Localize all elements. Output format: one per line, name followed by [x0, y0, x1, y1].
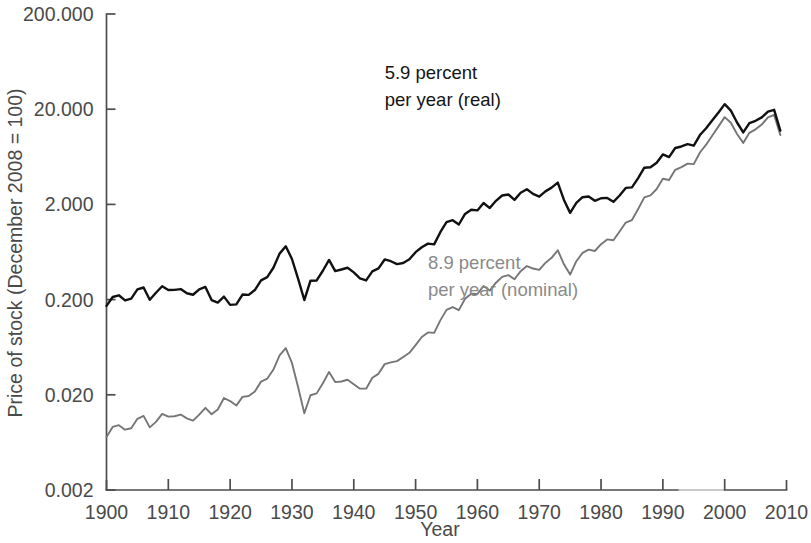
x-tick-label: 1990: [641, 501, 685, 523]
y-tick-label: 0.020: [45, 384, 94, 406]
y-axis-title: Price of stock (December 2008 = 100): [4, 89, 26, 418]
y-tick-label: 0.200: [45, 289, 94, 311]
real-annotation-line2: per year (real): [385, 89, 501, 110]
x-tick-label: 2010: [765, 501, 809, 523]
y-tick-label: 200.000: [23, 3, 94, 25]
x-tick-label: 1960: [456, 501, 500, 523]
x-tick-label: 1970: [518, 501, 562, 523]
y-tick-label: 2.000: [45, 193, 94, 215]
x-axis-group: 1900191019201930194019501960197019801990…: [85, 479, 809, 523]
real-annotation-line1: 5.9 percent: [385, 62, 478, 83]
x-axis-title: Year: [420, 518, 460, 540]
annotations-group: 5.9 percent per year (real) 8.9 percent …: [385, 62, 578, 300]
x-tick-label: 1930: [270, 501, 314, 523]
x-tick-label: 1920: [208, 501, 252, 523]
stock-price-log-chart: 0.0020.0200.2002.00020.000200.000 190019…: [0, 0, 811, 543]
y-tick-label: 0.002: [45, 479, 94, 501]
x-tick-label: 1900: [85, 501, 129, 523]
y-tick-label: 20.000: [34, 98, 94, 120]
real-price-line: [107, 104, 781, 306]
y-axis-tick-labels: 0.0020.0200.2002.00020.000200.000: [23, 3, 94, 501]
y-axis-tick-marks: [107, 14, 116, 490]
chart-figure: 0.0020.0200.2002.00020.000200.000 190019…: [0, 0, 811, 543]
x-tick-label: 2000: [703, 501, 747, 523]
x-tick-label: 1940: [332, 501, 376, 523]
x-tick-label: 1980: [579, 501, 623, 523]
x-axis-tick-marks: [107, 479, 787, 490]
y-axis-group: 0.0020.0200.2002.00020.000200.000: [23, 3, 116, 501]
nominal-price-line: [107, 115, 781, 437]
nominal-annotation-line1: 8.9 percent: [428, 252, 521, 273]
nominal-annotation-line2: per year (nominal): [428, 279, 578, 300]
x-tick-label: 1910: [147, 501, 191, 523]
